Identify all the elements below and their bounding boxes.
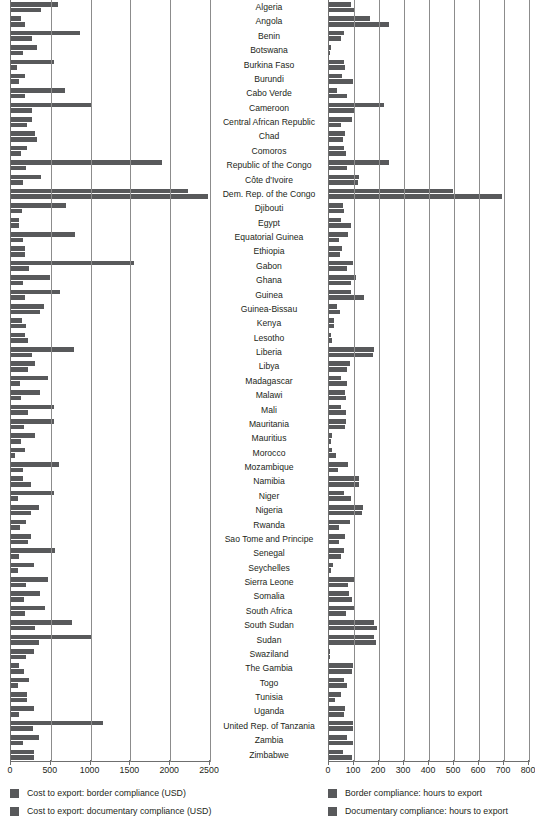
- bar-group: [11, 345, 209, 359]
- bar-series-1: [329, 706, 345, 711]
- bar-series-2: [11, 338, 28, 343]
- bar-group: [11, 29, 209, 43]
- bar-series-2: [11, 180, 23, 185]
- bar-series-2: [329, 252, 340, 257]
- bar-series-1: [329, 74, 342, 79]
- bar-series-1: [329, 261, 353, 266]
- bar-series-1: [11, 433, 35, 438]
- bar-series-2: [11, 123, 27, 128]
- bar-series-1: [11, 620, 72, 625]
- bar-group: [11, 460, 209, 474]
- bar-series-2: [329, 425, 345, 430]
- bar-group: [11, 115, 209, 129]
- bar-group: [11, 158, 209, 172]
- legend-label: Documentary compliance: hours to export: [345, 806, 508, 816]
- bar-series-2: [329, 310, 340, 315]
- bar-series-1: [329, 60, 344, 65]
- bar-group: [11, 273, 209, 287]
- category-label: Cabo Verde: [210, 86, 328, 100]
- bar-series-1: [329, 433, 332, 438]
- x-tick-label: 2000: [159, 765, 179, 775]
- bar-series-2: [329, 525, 339, 530]
- bar-series-1: [11, 218, 19, 223]
- bar-series-2: [329, 166, 347, 171]
- bar-group: [11, 575, 209, 589]
- bar-series-1: [329, 750, 343, 755]
- bar-series-1: [329, 663, 353, 668]
- legend-swatch-icon: [328, 789, 337, 798]
- bar-series-1: [11, 606, 45, 611]
- bar-series-1: [329, 146, 344, 151]
- bar-series-2: [329, 266, 347, 271]
- bar-series-1: [11, 160, 162, 165]
- category-label: Nigeria: [210, 503, 328, 517]
- bar-group: [11, 43, 209, 57]
- x-tick-mark: [353, 760, 354, 765]
- bar-series-1: [11, 563, 34, 568]
- bar-group: [11, 719, 209, 733]
- bar-series-1: [11, 189, 188, 194]
- bar-series-2: [329, 698, 335, 703]
- gridline: [354, 0, 355, 762]
- bar-group: [11, 201, 209, 215]
- category-label-column: AlgeriaAngolaBeninBotswanaBurkina FasoBu…: [210, 0, 328, 762]
- category-label: Sierra Leone: [210, 575, 328, 589]
- bar-series-1: [11, 232, 75, 237]
- bar-series-2: [11, 381, 20, 386]
- bar-series-1: [329, 491, 344, 496]
- x-tick-label: 600: [471, 765, 486, 775]
- category-label: Guinea-Bissau: [210, 302, 328, 316]
- x-tick-label: 1500: [120, 765, 140, 775]
- x-tick-mark: [453, 760, 454, 765]
- bar-series-1: [329, 275, 356, 280]
- bar-series-2: [329, 238, 339, 243]
- bar-series-2: [329, 338, 332, 343]
- bar-series-2: [329, 281, 351, 286]
- bar-series-2: [11, 755, 34, 760]
- x-tick-mark: [403, 760, 404, 765]
- bar-group: [11, 302, 209, 316]
- bar-series-2: [329, 568, 331, 573]
- bar-series-1: [329, 347, 374, 352]
- bar-series-2: [329, 741, 353, 746]
- bar-series-1: [11, 31, 80, 36]
- gridline: [429, 0, 430, 762]
- gridline: [404, 0, 405, 762]
- category-label: Equatorial Guinea: [210, 230, 328, 244]
- gridline: [91, 0, 92, 762]
- bar-series-1: [329, 505, 363, 510]
- category-label: Madagascar: [210, 374, 328, 388]
- bar-group: [11, 518, 209, 532]
- bar-series-2: [11, 482, 31, 487]
- bar-group: [11, 503, 209, 517]
- bar-series-1: [329, 189, 453, 194]
- category-label: Namibia: [210, 474, 328, 488]
- bar-series-1: [11, 491, 54, 496]
- category-label: Algeria: [210, 0, 328, 14]
- bar-group: [11, 474, 209, 488]
- bar-series-2: [11, 8, 41, 13]
- category-label: The Gambia: [210, 661, 328, 675]
- bar-series-2: [329, 8, 354, 13]
- bar-group: [11, 259, 209, 273]
- bar-group: [11, 244, 209, 258]
- bar-series-1: [11, 246, 25, 251]
- bar-series-2: [329, 439, 331, 444]
- bar-series-1: [11, 448, 25, 453]
- bar-series-2: [11, 310, 40, 315]
- bar-series-2: [11, 194, 208, 199]
- bar-series-1: [11, 318, 22, 323]
- gridline: [504, 0, 505, 762]
- bar-group: [11, 331, 209, 345]
- bar-series-2: [329, 669, 352, 674]
- x-tick-label: 0: [8, 765, 13, 775]
- bar-group: [11, 661, 209, 675]
- gridline: [379, 0, 380, 762]
- bar-series-1: [329, 620, 374, 625]
- x-tick-label: 300: [396, 765, 411, 775]
- bar-series-2: [11, 540, 28, 545]
- bar-series-2: [329, 683, 347, 688]
- cost-x-axis-line: [11, 761, 209, 762]
- category-label: Mauritania: [210, 417, 328, 431]
- bar-group: [11, 58, 209, 72]
